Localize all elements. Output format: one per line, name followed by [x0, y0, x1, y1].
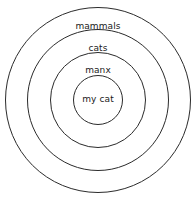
- concentric-set-diagram: mammals cats manx my cat: [0, 0, 196, 206]
- ring-label-my-cat: my cat: [0, 94, 196, 104]
- ring-label-manx: manx: [0, 65, 196, 75]
